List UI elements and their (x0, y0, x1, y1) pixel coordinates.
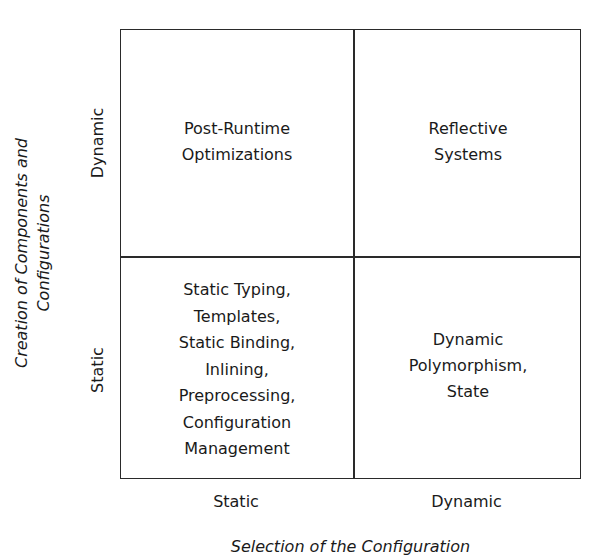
cell-label: Dynamic Polymorphism, State (409, 327, 527, 405)
cell-label: Reflective Systems (429, 116, 508, 168)
y-tick-dynamic: Dynamic (88, 93, 108, 193)
cell-dynamic-creation-dynamic-selection: Reflective Systems (354, 30, 582, 256)
matrix-grid: Post-Runtime Optimizations Reflective Sy… (120, 29, 581, 479)
cell-label: Static Typing, Templates, Static Binding… (179, 277, 296, 463)
x-axis-title: Selection of the Configuration (120, 537, 581, 556)
cell-static-creation-dynamic-selection: Dynamic Polymorphism, State (354, 257, 582, 480)
y-axis-title: Creation of Components and Configuration… (11, 133, 61, 373)
x-tick-static: Static (120, 492, 352, 511)
y-tick-static: Static (88, 320, 108, 420)
cell-label: Post-Runtime Optimizations (182, 116, 293, 168)
x-tick-dynamic: Dynamic (352, 492, 581, 511)
cell-static-creation-static-selection: Static Typing, Templates, Static Binding… (121, 257, 353, 480)
cell-dynamic-creation-static-selection: Post-Runtime Optimizations (121, 30, 353, 256)
